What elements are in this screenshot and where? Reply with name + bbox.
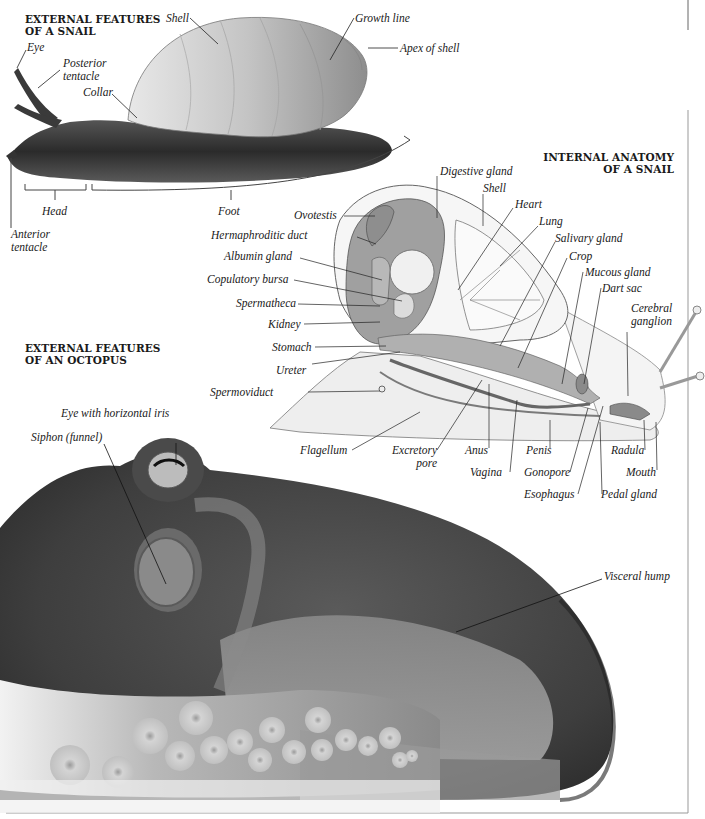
- label-siphon: Siphon (funnel): [31, 431, 102, 444]
- label-shell: Shell: [166, 12, 189, 25]
- label-posterior-tentacle: Posterior tentacle: [63, 57, 106, 82]
- label-anus: Anus: [465, 444, 488, 457]
- label-ovotestis: Ovotestis: [294, 209, 337, 222]
- heading-snail-internal: INTERNAL ANATOMY OF A SNAIL: [540, 151, 674, 175]
- label-mouth: Mouth: [626, 466, 656, 479]
- label-eye-with-horizontal-iris: Eye with horizontal iris: [61, 407, 169, 420]
- label-ureter: Ureter: [276, 364, 306, 377]
- label-spermatheca: Spermatheca: [236, 297, 296, 310]
- snail-external-illustration: [6, 17, 410, 228]
- label-stomach: Stomach: [272, 341, 312, 354]
- label-excretory-pore: Excretory pore: [380, 444, 437, 469]
- label-digestive-gland: Digestive gland: [440, 165, 513, 178]
- label-eye: Eye: [27, 41, 44, 54]
- label-vagina: Vagina: [470, 466, 502, 479]
- octopus-illustration: [0, 438, 614, 813]
- heading-octopus-external: EXTERNAL FEATURES OF AN OCTOPUS: [25, 342, 161, 366]
- label-salivary-gland: Salivary gland: [555, 232, 622, 245]
- label-heart: Heart: [515, 198, 542, 211]
- label-lung: Lung: [539, 215, 563, 228]
- label-albumin-gland: Albumin gland: [224, 250, 292, 263]
- label-cerebral-ganglion: Cerebral ganglion: [631, 302, 672, 327]
- label-internal-shell: Shell: [483, 182, 506, 195]
- label-copulatory-bursa: Copulatory bursa: [207, 273, 288, 286]
- label-foot: Foot: [218, 205, 240, 218]
- label-crop: Crop: [569, 250, 592, 263]
- label-dart-sac: Dart sac: [602, 282, 642, 295]
- label-gonopore: Gonopore: [524, 466, 570, 479]
- label-anterior-tentacle: Anterior tentacle: [11, 228, 50, 253]
- label-radula: Radula: [611, 444, 644, 457]
- label-pedal-gland: Pedal gland: [601, 488, 657, 501]
- label-growth-line: Growth line: [355, 12, 410, 25]
- anatomy-page: EXTERNAL FEATURES OF A SNAIL INTERNAL AN…: [0, 0, 705, 819]
- label-penis: Penis: [526, 444, 552, 457]
- label-visceral-hump: Visceral hump: [604, 570, 670, 583]
- label-spermoviduct: Spermoviduct: [210, 386, 273, 399]
- label-apex-of-shell: Apex of shell: [400, 42, 459, 55]
- label-hermaphroditic-duct: Hermaphroditic duct: [211, 229, 307, 242]
- label-esophagus: Esophagus: [524, 488, 574, 501]
- label-flagellum: Flagellum: [300, 444, 347, 457]
- label-head: Head: [42, 205, 67, 218]
- label-collar: Collar: [83, 86, 113, 99]
- heading-snail-external: EXTERNAL FEATURES OF A SNAIL: [25, 13, 161, 37]
- label-mucous-gland: Mucous gland: [585, 266, 650, 279]
- label-kidney: Kidney: [268, 318, 301, 331]
